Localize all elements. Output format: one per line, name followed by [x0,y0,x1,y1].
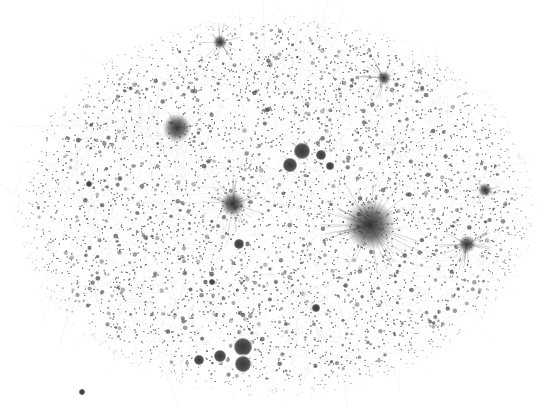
network-graph [0,0,544,408]
